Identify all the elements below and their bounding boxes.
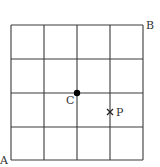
point-c-dot-icon xyxy=(74,90,80,96)
label-p: P xyxy=(116,106,124,119)
label-c: C xyxy=(66,94,74,107)
grid-diagram: A B C P xyxy=(0,0,160,167)
label-a: A xyxy=(0,154,9,167)
point-markers xyxy=(74,90,113,115)
label-b: B xyxy=(146,19,154,32)
